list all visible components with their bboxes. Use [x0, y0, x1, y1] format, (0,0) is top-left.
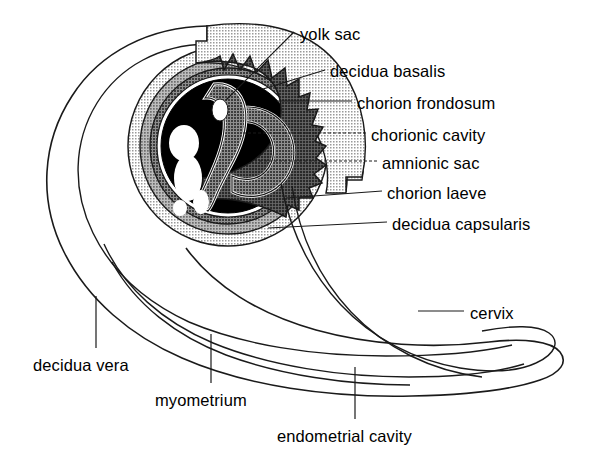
embryo-head: [169, 125, 199, 161]
embryo-limb-bud-upper: [193, 190, 209, 214]
label-myometrium: myometrium: [155, 392, 247, 409]
label-chorionic-cavity: chorionic cavity: [371, 127, 485, 144]
diagram-root: yolk sac decidua basalis chorion frondos…: [0, 0, 590, 476]
label-chorion-frondosum: chorion frondosum: [357, 95, 495, 112]
label-yolk-sac: yolk sac: [300, 26, 360, 43]
yolk-sac-vesicle: [212, 99, 228, 121]
label-decidua-capsularis: decidua capsularis: [392, 216, 530, 233]
cervix: [281, 184, 555, 377]
label-cervix: cervix: [470, 305, 514, 322]
endometrial-cavity: [104, 244, 524, 385]
label-endometrial-cavity: endometrial cavity: [277, 428, 412, 445]
embryo-limb-bud-lower: [173, 200, 187, 216]
label-decidua-vera: decidua vera: [33, 357, 129, 374]
uterus-cross-section-figure: [0, 0, 590, 476]
label-amnionic-sac: amnionic sac: [382, 155, 480, 172]
label-chorion-laeve: chorion laeve: [387, 185, 486, 202]
label-decidua-basalis: decidua basalis: [330, 63, 445, 80]
